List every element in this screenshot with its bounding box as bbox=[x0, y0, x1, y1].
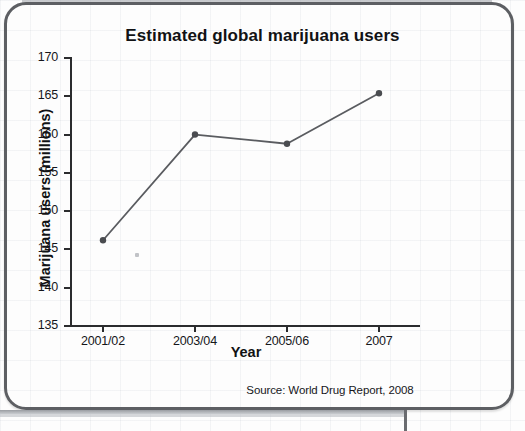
source-note: Source: World Drug Report, 2008 bbox=[200, 384, 460, 396]
x-tick bbox=[286, 325, 288, 332]
x-tick-label: 2003/04 bbox=[155, 334, 235, 348]
y-tick bbox=[64, 172, 71, 174]
y-tick bbox=[64, 325, 71, 327]
chart-title: Estimated global marijuana users bbox=[0, 26, 525, 46]
y-tick bbox=[64, 134, 71, 136]
data-point-marker bbox=[376, 90, 382, 96]
y-tick-label: 145 bbox=[22, 241, 58, 255]
y-tick-label: 160 bbox=[22, 127, 58, 141]
x-tick bbox=[194, 325, 196, 332]
data-point-marker bbox=[192, 131, 198, 137]
line-chart: Estimated global marijuana users Marijua… bbox=[0, 0, 525, 431]
x-tick-label: 2007 bbox=[339, 334, 419, 348]
data-point-marker bbox=[100, 237, 106, 243]
data-point-marker bbox=[284, 141, 290, 147]
x-tick-label: 2001/02 bbox=[63, 334, 143, 348]
y-tick-label: 165 bbox=[22, 88, 58, 102]
y-tick bbox=[64, 248, 71, 250]
y-tick-label: 170 bbox=[22, 50, 58, 64]
x-tick bbox=[378, 325, 380, 332]
series-line bbox=[103, 93, 379, 240]
y-tick bbox=[64, 287, 71, 289]
y-tick-label: 135 bbox=[22, 318, 58, 332]
y-tick-label: 150 bbox=[22, 203, 58, 217]
x-axis-line bbox=[70, 325, 420, 327]
x-tick bbox=[102, 325, 104, 332]
series-layer bbox=[0, 0, 525, 431]
y-tick bbox=[64, 210, 71, 212]
y-tick bbox=[64, 57, 71, 59]
x-tick-label: 2005/06 bbox=[247, 334, 327, 348]
scan-artifact-speck bbox=[135, 253, 139, 257]
y-tick-label: 155 bbox=[22, 165, 58, 179]
y-tick bbox=[64, 95, 71, 97]
y-tick-label: 140 bbox=[22, 280, 58, 294]
